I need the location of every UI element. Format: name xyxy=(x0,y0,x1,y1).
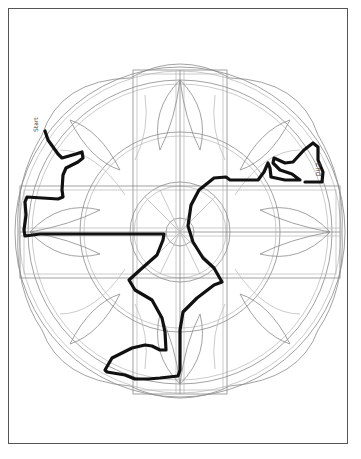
end-label: End xyxy=(314,163,321,176)
start-label: Start xyxy=(33,117,39,132)
maze-artwork xyxy=(0,0,361,459)
maze-page: Start End xyxy=(0,0,361,459)
